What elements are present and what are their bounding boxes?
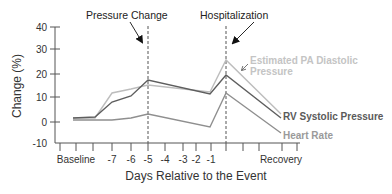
annotation-hospitalization: Hospitalization — [200, 9, 268, 21]
x-tick-m1: -1 — [207, 154, 216, 165]
label-pa-diastolic-line2: Pressure — [250, 66, 293, 77]
y-tick-0: 0 — [41, 117, 47, 128]
label-heart-rate: Heart Rate — [283, 130, 333, 141]
y-axis-title: Change (%) — [10, 54, 24, 118]
annotation-pressure-change: Pressure Change — [86, 9, 168, 21]
y-axis: 40 30 20 10 0 -10 Change (%) — [10, 22, 60, 149]
x-tick-recovery: Recovery — [260, 154, 302, 165]
pa-label-pointer-icon — [242, 64, 248, 70]
x-tick-m4: -4 — [161, 154, 170, 165]
y-tick-10: 10 — [36, 92, 48, 103]
x-tick-baseline: Baseline — [57, 154, 96, 165]
y-tick-neg10: -10 — [33, 138, 48, 149]
x-tick-m5: -5 — [144, 154, 153, 165]
x-tick-m7: -7 — [108, 154, 117, 165]
series-rv-systolic-line — [73, 75, 281, 118]
y-tick-40: 40 — [36, 22, 48, 33]
x-tick-m6: -6 — [127, 154, 136, 165]
y-tick-30: 30 — [36, 44, 48, 55]
x-tick-m3: -3 — [179, 154, 188, 165]
line-chart: 40 30 20 10 0 -10 Change (%) Baseline — [0, 0, 392, 194]
label-rv-systolic: RV Systolic Pressure — [283, 111, 384, 122]
series-heart-rate-line — [73, 93, 281, 133]
x-tick-m2: -2 — [192, 154, 201, 165]
label-pa-diastolic-line1: Estimated PA Diastolic — [250, 55, 358, 66]
y-tick-20: 20 — [36, 69, 48, 80]
arrow-pressure-change-icon — [130, 22, 142, 42]
arrow-hospitalization-icon — [233, 22, 254, 43]
x-axis: Baseline -7 -6 -5 -4 -3 -2 -1 Recovery D… — [55, 143, 302, 183]
x-axis-title: Days Relative to the Event — [125, 169, 267, 183]
